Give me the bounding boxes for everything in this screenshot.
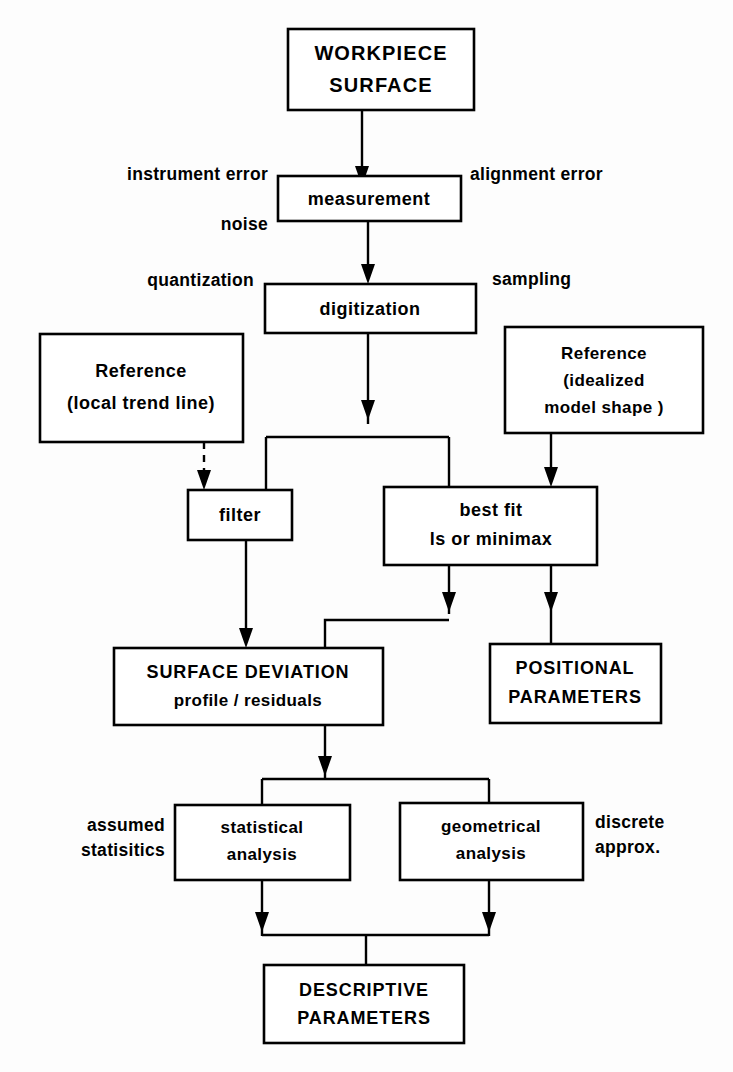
annotation-sampling: sampling bbox=[492, 269, 571, 289]
positional-parameters-box[interactable] bbox=[490, 644, 661, 723]
node-statistical-analysis[interactable]: statistical analysis bbox=[175, 805, 350, 880]
arrowhead-bestfit-positional bbox=[544, 592, 558, 612]
measurement-label: measurement bbox=[308, 189, 431, 209]
workpiece-surface-line2: SURFACE bbox=[329, 74, 432, 96]
bestfit-line1: best fit bbox=[459, 500, 522, 520]
geometrical-analysis-line1: geometrical bbox=[441, 817, 541, 836]
node-digitization[interactable]: digitization bbox=[265, 284, 476, 333]
reference-model-line2: (idealized bbox=[563, 371, 644, 390]
descriptive-parameters-line1: DESCRIPTIVE bbox=[299, 980, 429, 1000]
descriptive-parameters-line2: PARAMETERS bbox=[297, 1008, 431, 1028]
arrowhead-reference-model-bestfit bbox=[544, 467, 558, 487]
reference-local-line1: Reference bbox=[95, 361, 187, 381]
annotation-approx: approx. bbox=[595, 837, 660, 857]
annotation-instrument-error: instrument error bbox=[127, 164, 268, 184]
node-best-fit[interactable]: best fit ls or minimax bbox=[384, 487, 597, 565]
surface-deviation-box[interactable] bbox=[114, 648, 383, 725]
positional-parameters-line2: PARAMETERS bbox=[508, 687, 642, 707]
workpiece-surface-line1: WORKPIECE bbox=[314, 42, 447, 64]
annotation-alignment-error: alignment error bbox=[470, 164, 603, 184]
digitization-label: digitization bbox=[320, 299, 421, 319]
flowchart-root: WORKPIECE SURFACE measurement digitizati… bbox=[0, 0, 733, 1072]
node-reference-idealized-model-shape[interactable]: Reference (idealized model shape ) bbox=[505, 327, 703, 433]
node-surface-deviation[interactable]: SURFACE DEVIATION profile / residuals bbox=[114, 648, 383, 725]
bestfit-box[interactable] bbox=[384, 487, 597, 565]
positional-parameters-line1: POSITIONAL bbox=[515, 658, 634, 678]
arrowhead-geometrical-down bbox=[482, 912, 496, 932]
node-filter[interactable]: filter bbox=[188, 490, 292, 540]
arrowhead-filter-surface-deviation bbox=[239, 628, 253, 648]
node-reference-local-trend-line[interactable]: Reference (local trend line) bbox=[40, 334, 243, 442]
arrowhead-bestfit-left bbox=[442, 592, 456, 612]
annotation-assumed: assumed bbox=[87, 815, 165, 835]
annotation-quantization: quantization bbox=[147, 270, 254, 290]
geometrical-analysis-line2: analysis bbox=[456, 844, 526, 863]
reference-local-box[interactable] bbox=[40, 334, 243, 442]
filter-label: filter bbox=[219, 505, 261, 525]
annotation-statisitics: statisitics bbox=[81, 840, 165, 860]
surface-deviation-line2: profile / residuals bbox=[174, 691, 322, 710]
workpiece-surface-box[interactable] bbox=[288, 29, 474, 110]
node-positional-parameters[interactable]: POSITIONAL PARAMETERS bbox=[490, 644, 661, 723]
arrowhead-statistical-down bbox=[255, 912, 269, 932]
statistical-analysis-box[interactable] bbox=[175, 805, 350, 880]
reference-model-line3: model shape ) bbox=[544, 398, 664, 417]
annotation-noise: noise bbox=[221, 214, 268, 234]
descriptive-parameters-box[interactable] bbox=[264, 965, 464, 1043]
bestfit-line2: ls or minimax bbox=[430, 529, 553, 549]
reference-local-line2: (local trend line) bbox=[67, 393, 215, 413]
reference-model-line1: Reference bbox=[561, 344, 647, 363]
surface-deviation-line1: SURFACE DEVIATION bbox=[147, 662, 350, 682]
flowchart-svg: WORKPIECE SURFACE measurement digitizati… bbox=[0, 0, 733, 1072]
arrowhead-measurement-digitization bbox=[361, 264, 375, 284]
annotation-discrete: discrete bbox=[595, 812, 665, 832]
arrowhead-reference-local-filter bbox=[197, 470, 211, 490]
node-geometrical-analysis[interactable]: geometrical analysis bbox=[400, 803, 583, 880]
arrowhead-surface-deviation-down bbox=[318, 756, 332, 776]
statistical-analysis-line1: statistical bbox=[221, 818, 304, 837]
node-measurement[interactable]: measurement bbox=[278, 176, 461, 221]
statistical-analysis-line2: analysis bbox=[227, 845, 297, 864]
node-descriptive-parameters[interactable]: DESCRIPTIVE PARAMETERS bbox=[264, 965, 464, 1043]
edge-bestfit-to-surface-deviation bbox=[325, 620, 449, 648]
geometrical-analysis-box[interactable] bbox=[400, 803, 583, 880]
arrowhead-digitization-down bbox=[361, 400, 375, 420]
node-workpiece-surface[interactable]: WORKPIECE SURFACE bbox=[288, 29, 474, 110]
